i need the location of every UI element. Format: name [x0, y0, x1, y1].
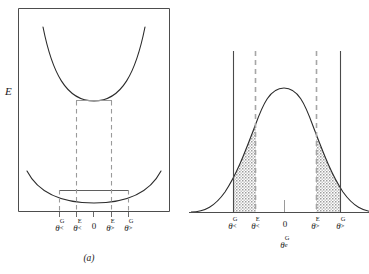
panel-b-shaded-bands	[233, 60, 340, 213]
ground-state-curve	[27, 171, 161, 203]
panel-b: θG< θE< 0 θE> θG> θGe (b)	[185, 0, 369, 274]
gaussian-distribution-curve	[191, 88, 369, 212]
panel-a-ticks	[60, 212, 129, 217]
left-hatched-band	[233, 60, 256, 213]
panel-a-frame	[19, 9, 170, 212]
figure-container: E θG< θE< 0 θE> θG> (a)	[0, 0, 369, 274]
panel-b-x-axis-variable: θGe	[280, 239, 289, 250]
right-hatched-band	[316, 60, 340, 213]
panel-a-plot	[0, 0, 190, 274]
panel-a-y-axis-label: E	[5, 86, 12, 97]
excited-state-curve	[43, 27, 145, 101]
panel-a: E θG< θE< 0 θE> θG> (a)	[0, 0, 190, 274]
panel-b-plot	[185, 0, 369, 274]
panel-a-caption: (a)	[69, 254, 109, 264]
